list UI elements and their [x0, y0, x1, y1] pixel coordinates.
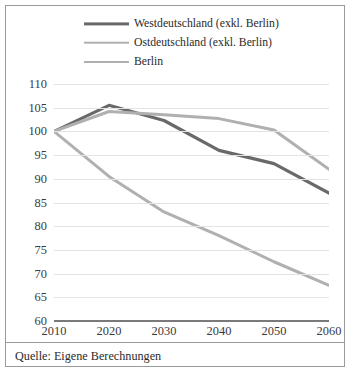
x-tick-label: 2060 [317, 324, 342, 339]
y-tick-label: 65 [7, 290, 47, 305]
y-tick-label: 100 [7, 124, 47, 139]
gridline [54, 250, 329, 251]
y-tick-label: 75 [7, 242, 47, 257]
gridline [54, 297, 329, 298]
gridline [54, 108, 329, 109]
gridline [54, 203, 329, 204]
series-line [54, 111, 329, 169]
legend-item-westdeutschland: Westdeutschland (exkl. Berlin) [84, 14, 334, 33]
gridline [54, 84, 329, 85]
x-tick-label: 2030 [152, 324, 177, 339]
chart-legend: Westdeutschland (exkl. Berlin) Ostdeutsc… [84, 14, 334, 71]
source-note: Quelle: Eigene Berechnungen [15, 349, 161, 364]
y-tick-label: 95 [7, 148, 47, 163]
legend-item-berlin: Berlin [84, 52, 334, 71]
y-tick-label: 85 [7, 195, 47, 210]
x-tick-label: 2050 [262, 324, 287, 339]
chart-plot-area: 6065707580859095100105110 [54, 84, 329, 321]
gridline [54, 155, 329, 156]
x-tick-label: 2010 [42, 324, 67, 339]
y-tick-label: 105 [7, 100, 47, 115]
gridline [54, 274, 329, 275]
source-divider [6, 342, 344, 343]
x-tick-label: 2020 [97, 324, 122, 339]
x-axis-ticks: 201020202030204020502060 [54, 324, 329, 342]
gridline [54, 179, 329, 180]
x-axis-line [54, 320, 329, 323]
legend-label-berlin: Berlin [134, 56, 163, 68]
gridline [54, 226, 329, 227]
chart-frame: Westdeutschland (exkl. Berlin) Ostdeutsc… [5, 5, 345, 367]
series-line [54, 105, 329, 193]
y-tick-label: 90 [7, 171, 47, 186]
legend-label-ostdeutschland: Ostdeutschland (exkl. Berlin) [134, 37, 272, 49]
y-tick-label: 80 [7, 219, 47, 234]
legend-label-westdeutschland: Westdeutschland (exkl. Berlin) [134, 18, 279, 30]
y-tick-label: 70 [7, 266, 47, 281]
gridline [54, 131, 329, 132]
y-tick-label: 110 [7, 77, 47, 92]
x-tick-label: 2040 [207, 324, 232, 339]
legend-item-ostdeutschland: Ostdeutschland (exkl. Berlin) [84, 33, 334, 52]
